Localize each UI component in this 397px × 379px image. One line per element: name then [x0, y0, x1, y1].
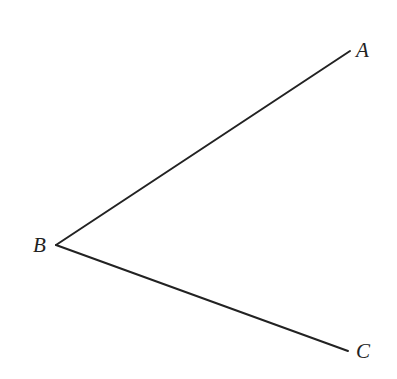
- point-label-b: B: [33, 235, 46, 256]
- segment-bc: [56, 245, 348, 351]
- segment-ba: [56, 51, 350, 245]
- angle-diagram: [0, 0, 397, 379]
- point-label-c: C: [356, 341, 370, 362]
- point-label-a: A: [356, 40, 369, 61]
